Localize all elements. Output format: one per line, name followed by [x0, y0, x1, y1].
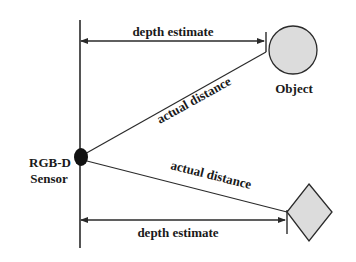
depth-diagram: depth estimate Object actual distance ac…: [0, 0, 356, 262]
sensor-label-line1: RGB-D: [29, 155, 71, 170]
bottom-depth-estimate-label: depth estimate: [137, 225, 218, 240]
object-circle: [269, 26, 317, 74]
rgbd-sensor: [74, 148, 88, 166]
top-actual-distance-label: actual distance: [154, 73, 234, 126]
sensor-label-line2: Sensor: [30, 171, 68, 186]
top-depth-estimate-label: depth estimate: [132, 24, 213, 39]
object-label: Object: [275, 81, 313, 96]
object-diamond: [287, 184, 332, 241]
bottom-actual-distance-label: actual distance: [169, 157, 253, 192]
